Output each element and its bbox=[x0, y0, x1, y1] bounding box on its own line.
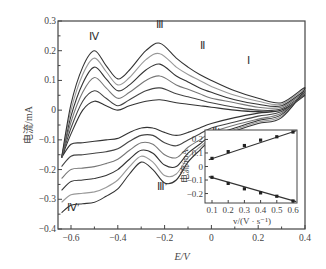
inset-x-axis-title: v/(V · s⁻¹) bbox=[233, 216, 271, 226]
inset-data-point bbox=[291, 130, 294, 133]
x-axis-title: E/V bbox=[174, 251, 192, 262]
y-tick-label: −0.4 bbox=[39, 224, 56, 234]
x-tick-label: −0.2 bbox=[156, 233, 173, 243]
inset-data-point bbox=[243, 187, 246, 190]
inset-x-tick-label: 0.3 bbox=[239, 205, 251, 215]
inset-y-tick-label: 0 bbox=[199, 162, 204, 172]
peak-label: Ⅰ bbox=[247, 54, 250, 66]
inset-plot: 0.10.20.30.40.50.60.20.10−0.1−0.2 bbox=[187, 130, 299, 215]
inset-x-tick-label: 0.5 bbox=[271, 205, 283, 215]
inset-x-tick-label: 0.6 bbox=[287, 205, 299, 215]
y-tick-label: 0.2 bbox=[44, 46, 56, 56]
inset-data-point bbox=[259, 191, 262, 194]
inset-x-tick-label: 0.4 bbox=[255, 205, 267, 215]
inset-frame bbox=[205, 130, 297, 203]
x-tick-label: 0.2 bbox=[252, 233, 264, 243]
inset-data-point bbox=[291, 199, 294, 202]
inset-data-point bbox=[275, 135, 278, 138]
inset-data-point bbox=[259, 139, 262, 142]
y-tick-label: −0.1 bbox=[39, 135, 56, 145]
y-tick-label: −0.2 bbox=[39, 165, 56, 175]
x-tick-label: 0.4 bbox=[299, 233, 311, 243]
inset-data-point bbox=[275, 195, 278, 198]
inset-data-point bbox=[210, 157, 213, 160]
inset-data-point bbox=[243, 144, 246, 147]
inset-y-axis-title: 电流/mA bbox=[179, 149, 190, 184]
y-tick-label: 0 bbox=[51, 105, 56, 115]
y-tick-label: −0.3 bbox=[39, 194, 56, 204]
peak-label: Ⅳ′ bbox=[67, 201, 79, 213]
inset-y-tick-label: 0.1 bbox=[192, 148, 203, 158]
peak-label: Ⅲ bbox=[156, 18, 164, 30]
inset-x-tick-label: 0.2 bbox=[223, 205, 234, 215]
inset-y-tick-label: −0.2 bbox=[187, 189, 203, 199]
x-tick-label: 0 bbox=[209, 233, 214, 243]
inset-data-point bbox=[210, 176, 213, 179]
inset-x-tick-label: 0.1 bbox=[206, 205, 217, 215]
peak-label: Ⅱ bbox=[200, 39, 205, 51]
y-axis-title: 电流/mA bbox=[22, 105, 34, 144]
inset-data-point bbox=[227, 182, 230, 185]
x-tick-label: −0.4 bbox=[109, 233, 126, 243]
inset-data-point bbox=[227, 150, 230, 153]
x-tick-label: −0.6 bbox=[62, 233, 79, 243]
peak-label: Ⅳ bbox=[89, 30, 100, 42]
y-tick-label: 0.3 bbox=[44, 16, 56, 26]
inset-y-tick-label: 0.2 bbox=[192, 134, 203, 144]
cv-chart: −0.6−0.4−0.200.20.40.30.20.10−0.1−0.2−0.… bbox=[0, 0, 326, 269]
peak-label: Ⅲ′ bbox=[157, 180, 167, 192]
y-tick-label: 0.1 bbox=[44, 75, 56, 85]
